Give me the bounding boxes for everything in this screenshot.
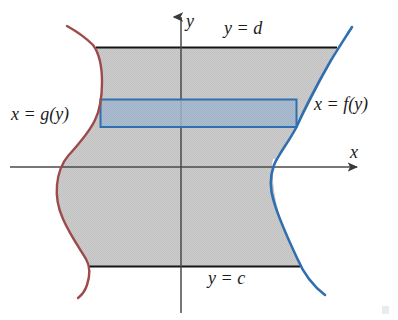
shaded-region [57,47,337,266]
figure-graphic [0,0,398,320]
representative-rectangle [101,100,297,128]
lower-boundary-label: y = c [208,269,245,287]
x-axis-label: x [350,143,358,161]
y-axis-label: y [186,12,194,30]
right-curve-label: x = f(y) [314,95,368,113]
corner-artifact [382,306,389,314]
upper-boundary-label: y = d [224,19,262,37]
figure-canvas: y x y = d y = c x = g(y) x = f(y) [0,0,398,320]
left-curve-label: x = g(y) [11,105,69,123]
